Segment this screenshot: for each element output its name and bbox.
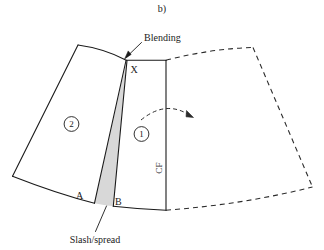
mirror-bottom-arc xyxy=(166,187,313,210)
figure-container: 2 1 b) Blending Slash/spread X A B CF xyxy=(0,0,324,250)
blending-arrow-head xyxy=(125,51,132,59)
piece-one-marker: 1 xyxy=(134,127,149,142)
slash-spread-leader-line xyxy=(96,206,107,232)
piece-one-number: 1 xyxy=(139,129,144,139)
panel-two-top-curve xyxy=(78,45,126,60)
slash-spread-wedge xyxy=(95,61,127,206)
figure-caption: b) xyxy=(158,3,166,15)
blending-label: Blending xyxy=(144,32,181,43)
piece-two-number: 2 xyxy=(69,119,74,129)
point-x-label: X xyxy=(131,64,139,75)
slash-spread-label: Slash/spread xyxy=(70,234,121,245)
piece-two-marker: 2 xyxy=(64,117,79,132)
panel-one-bottom-arc xyxy=(113,206,166,210)
point-a-label: A xyxy=(76,190,84,201)
rotation-arrow-head xyxy=(186,111,194,118)
center-front-label: CF xyxy=(154,162,164,174)
pattern-diagram-svg: 2 1 b) Blending Slash/spread X A B CF xyxy=(0,0,324,250)
panel-two-left-edge xyxy=(13,45,79,176)
point-b-label: B xyxy=(115,196,122,207)
mirror-top-curve xyxy=(166,48,253,61)
mirror-right-edge xyxy=(253,48,313,188)
